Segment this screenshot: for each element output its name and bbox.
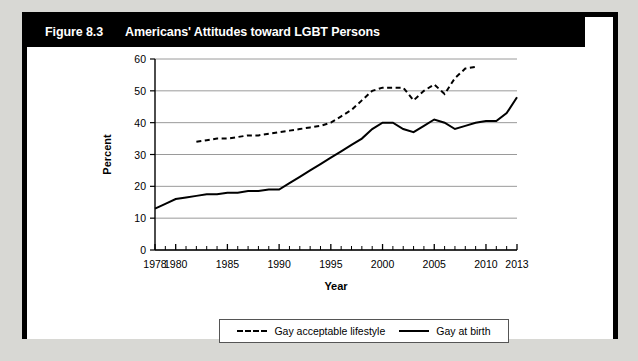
chart-plot-area: 0102030405060 19781980198519901995200020… xyxy=(27,47,613,339)
legend-label-text: Gay at birth xyxy=(436,325,490,337)
x-axis-title: Year xyxy=(324,280,348,292)
legend-item-gay-at-birth: Gay at birth xyxy=(399,325,490,337)
y-tick-label: 40 xyxy=(134,117,146,129)
figure-number-label: Figure 8.3 xyxy=(45,25,103,39)
legend-item-gay-acceptable-lifestyle: Gay acceptable lifestyle xyxy=(237,325,385,337)
y-tick-label: 10 xyxy=(134,212,146,224)
legend-swatch-dashed-icon xyxy=(237,330,267,332)
y-tick-label: 60 xyxy=(134,53,146,65)
x-tick-label: 1995 xyxy=(319,258,343,270)
x-tick-label: 2010 xyxy=(474,258,498,270)
line-chart: 0102030405060 19781980198519901995200020… xyxy=(27,47,613,339)
x-tick-label: 2000 xyxy=(371,258,395,270)
chart-legend: Gay acceptable lifestyle Gay at birth xyxy=(219,319,509,343)
y-axis-title: Percent xyxy=(101,134,113,175)
figure-container: Figure 8.3 Americans' Attitudes toward L… xyxy=(22,12,618,339)
x-tick-label: 1990 xyxy=(267,258,291,270)
x-tick-label: 1985 xyxy=(216,258,240,270)
x-tick-label: 2013 xyxy=(505,258,529,270)
figure-header-bar: Figure 8.3 Americans' Attitudes toward L… xyxy=(27,17,585,47)
y-tick-label: 30 xyxy=(134,149,146,161)
y-tick-label: 50 xyxy=(134,85,146,97)
y-tick-label: 20 xyxy=(134,180,146,192)
y-tick-label: 0 xyxy=(140,244,146,256)
x-tick-label: 2005 xyxy=(423,258,447,270)
figure-title-text: Americans' Attitudes toward LGBT Persons xyxy=(125,25,380,39)
legend-label-text: Gay acceptable lifestyle xyxy=(274,325,385,337)
legend-swatch-solid-icon xyxy=(399,330,429,332)
x-tick-label: 1980 xyxy=(164,258,188,270)
